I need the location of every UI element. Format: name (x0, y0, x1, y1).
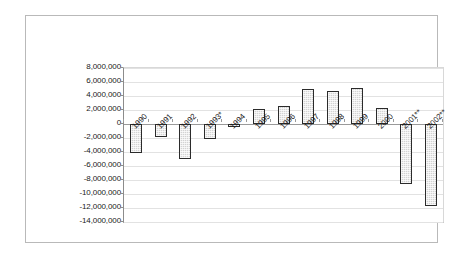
plot-area (123, 67, 444, 223)
gridline (124, 180, 443, 181)
gridline (124, 152, 443, 153)
x-axis-tick-mark (221, 119, 222, 122)
x-axis-tick-mark (368, 119, 369, 122)
y-axis-tick-label: -10,000,000 (47, 189, 121, 197)
y-axis-tick-label: -12,000,000 (47, 203, 121, 211)
y-axis: 8,000,0006,000,0004,000,0002,000,0000-2,… (43, 67, 121, 223)
gridline (124, 208, 443, 209)
gridline (124, 82, 443, 83)
x-axis-tick-mark (319, 119, 320, 122)
gridline (124, 166, 443, 167)
y-axis-tick-label: -8,000,000 (47, 175, 121, 183)
y-axis-tick-label: -14,000,000 (47, 217, 121, 225)
gridline (124, 138, 443, 139)
x-axis-tick-mark (393, 119, 394, 122)
x-axis-tick-mark (270, 119, 271, 122)
x-axis-tick-mark (197, 119, 198, 122)
x-axis-tick-mark (417, 119, 418, 122)
x-axis-tick-mark (123, 119, 124, 122)
y-axis-tick-label: 0 (47, 119, 121, 127)
x-axis-tick-mark (172, 119, 173, 122)
y-axis-tick-label: 2,000,000 (47, 105, 121, 113)
gridline (124, 222, 443, 223)
gridline (124, 96, 443, 97)
y-axis-tick-label: 6,000,000 (47, 77, 121, 85)
y-axis-tick-label: -6,000,000 (47, 161, 121, 169)
bar (400, 124, 412, 184)
x-axis-tick-mark (344, 119, 345, 122)
y-axis-tick-label: -2,000,000 (47, 133, 121, 141)
gridline (124, 194, 443, 195)
x-axis-tick-mark (246, 119, 247, 122)
y-axis-tick-label: -4,000,000 (47, 147, 121, 155)
bar (425, 124, 437, 206)
y-axis-tick-label: 8,000,000 (47, 63, 121, 71)
x-axis-tick-mark (442, 119, 443, 122)
gridline (124, 68, 443, 69)
y-axis-tick-label: 4,000,000 (47, 91, 121, 99)
x-axis-tick-mark (148, 119, 149, 122)
x-axis-tick-mark (295, 119, 296, 122)
chart-frame: 8,000,0006,000,0004,000,0002,000,0000-2,… (25, 15, 438, 243)
